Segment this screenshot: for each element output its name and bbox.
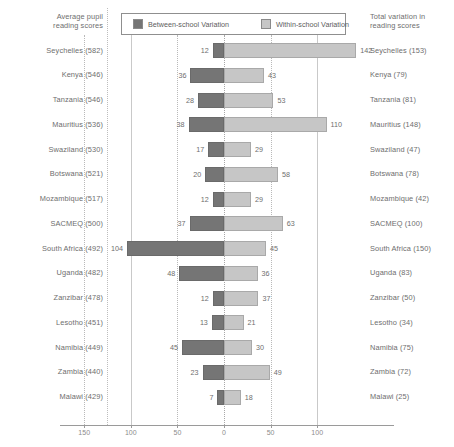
legend-item-between-school: Between-school Variation (133, 19, 229, 29)
value-label-within-school: 21 (248, 318, 256, 327)
value-label-within-school: 63 (287, 219, 295, 228)
axis-tick-label: 0 (212, 429, 236, 436)
bar-within-school (224, 216, 283, 231)
bar-within-school (224, 117, 327, 132)
row-label-right: Malawi (25) (370, 392, 409, 401)
bar-within-school (224, 340, 252, 355)
x-axis-line (60, 425, 394, 426)
row-label-right: Namibia (75) (370, 343, 414, 352)
value-label-within-school: 18 (245, 393, 253, 402)
bar-within-school (224, 192, 251, 207)
bar-within-school (224, 167, 278, 182)
row-label-left: South Africa (492) (3, 244, 103, 253)
row-label-left: Uganda (482) (3, 268, 103, 277)
axis-tick-label: 50 (165, 429, 189, 436)
bar-between-school (179, 266, 224, 281)
bar-between-school (203, 365, 224, 380)
bar-within-school (224, 291, 258, 306)
value-label-between-school: 37 (156, 219, 186, 228)
row-label-right: Seychelles (153) (370, 46, 427, 55)
bar-within-school (224, 266, 258, 281)
row-label-left: Botswana (521) (3, 169, 103, 178)
axis-tick-label: 50 (259, 429, 283, 436)
bar-between-school (190, 216, 224, 231)
bar-between-school (205, 167, 224, 182)
row-label-right: Zanzibar (50) (370, 293, 415, 302)
legend-swatch-within-school-icon (261, 19, 271, 29)
value-label-between-school: 12 (179, 195, 209, 204)
legend-item-within-school: Within-school Variation (261, 19, 349, 29)
chart-canvas: Average pupilreading scores Total variat… (0, 0, 454, 447)
row-label-right: Uganda (83) (370, 268, 412, 277)
row-label-left: Namibia (449) (3, 343, 103, 352)
bar-within-school (224, 365, 270, 380)
right-axis-title: Total variation inreading scores (370, 12, 452, 31)
bar-between-school (208, 142, 224, 157)
legend-label-between-school: Between-school Variation (148, 20, 229, 29)
value-label-between-school: 12 (179, 46, 209, 55)
row-label-right: Mauritius (148) (370, 120, 421, 129)
row-label-right: South Africa (150) (370, 244, 431, 253)
bar-within-school (224, 390, 241, 405)
value-label-between-school: 104 (93, 244, 123, 253)
value-label-within-school: 45 (270, 244, 278, 253)
value-label-within-school: 30 (256, 343, 264, 352)
bar-between-school (213, 43, 224, 58)
value-label-within-school: 53 (277, 96, 285, 105)
gridline-minus50 (177, 35, 178, 425)
bar-within-school (224, 43, 356, 58)
row-label-right: Mozambique (42) (370, 194, 429, 203)
bar-within-school (224, 241, 266, 256)
value-label-within-school: 36 (262, 269, 270, 278)
value-label-within-school: 58 (282, 170, 290, 179)
bar-between-school (182, 340, 224, 355)
value-label-within-school: 142 (360, 46, 372, 55)
row-label-right: Zambia (72) (370, 367, 411, 376)
bar-within-school (224, 93, 273, 108)
chart-legend: Between-school Variation Within-school V… (121, 13, 346, 35)
legend-label-within-school: Within-school Variation (276, 20, 349, 29)
row-label-left: Mozambique (517) (3, 194, 103, 203)
value-label-within-school: 110 (331, 120, 342, 129)
label-divider (107, 8, 108, 425)
row-label-left: Tanzania (546) (3, 95, 103, 104)
bar-within-school (224, 315, 244, 330)
value-label-within-school: 37 (262, 294, 270, 303)
value-label-between-school: 7 (183, 393, 213, 402)
bar-between-school (127, 241, 224, 256)
left-axis-title: Average pupilreading scores (6, 12, 103, 31)
row-label-right: SACMEQ (100) (370, 219, 423, 228)
row-label-left: SACMEQ (500) (3, 219, 103, 228)
axis-tick-label: 100 (305, 429, 329, 436)
bar-between-school (213, 291, 224, 306)
bar-between-school (212, 315, 224, 330)
row-label-right: Kenya (79) (370, 70, 407, 79)
bar-between-school (217, 390, 224, 405)
row-label-left: Mauritius (536) (3, 120, 103, 129)
axis-tick-label: 100 (119, 429, 143, 436)
row-label-left: Seychelles (582) (3, 46, 103, 55)
value-label-between-school: 23 (169, 368, 199, 377)
row-label-left: Swaziland (530) (3, 145, 103, 154)
row-label-right: Lesotho (34) (370, 318, 413, 327)
value-label-between-school: 28 (164, 96, 194, 105)
row-label-left: Lesotho (451) (3, 318, 103, 327)
value-label-between-school: 45 (148, 343, 178, 352)
bar-within-school (224, 142, 251, 157)
value-label-between-school: 48 (145, 269, 175, 278)
bar-between-school (190, 68, 224, 83)
row-label-left: Malawi (429) (3, 392, 103, 401)
gridline-minus100 (131, 35, 132, 425)
gridline-minus150 (84, 35, 85, 425)
value-label-within-school: 29 (255, 195, 263, 204)
row-label-right: Botswana (78) (370, 169, 419, 178)
value-label-within-school: 49 (274, 368, 282, 377)
bar-within-school (224, 68, 264, 83)
bar-between-school (213, 192, 224, 207)
value-label-within-school: 29 (255, 145, 263, 154)
value-label-between-school: 20 (171, 170, 201, 179)
value-label-between-school: 12 (179, 294, 209, 303)
gridline-100 (317, 35, 318, 425)
legend-swatch-between-school-icon (133, 19, 143, 29)
value-label-between-school: 17 (174, 145, 204, 154)
